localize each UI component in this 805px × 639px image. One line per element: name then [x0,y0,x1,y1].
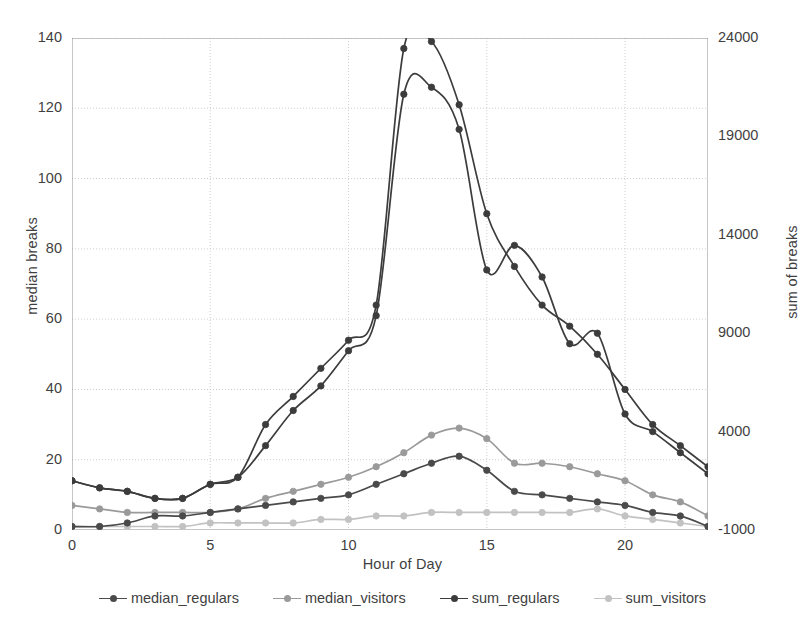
data-point [373,464,379,470]
data-point [72,523,75,529]
data-point [373,481,379,487]
data-point [428,460,434,466]
data-point [179,495,185,501]
data-point [152,495,158,501]
data-point [290,393,296,399]
y-axis-left-tick: 0 [0,521,62,537]
y-axis-left-tick: 60 [0,310,62,326]
data-point [207,509,213,515]
data-point [539,274,545,280]
data-point [567,323,573,329]
data-point [456,425,462,431]
data-point [235,474,241,480]
data-point [649,509,655,515]
data-point [345,492,351,498]
data-point [401,45,407,51]
data-point [567,495,573,501]
data-point [373,513,379,519]
data-point [96,523,102,529]
x-axis-tick: 5 [180,537,240,553]
data-point [594,330,600,336]
data-point [290,499,296,505]
data-point [539,492,545,498]
series-median_visitors [72,425,708,519]
data-point [649,492,655,498]
y-axis-left-tick: 20 [0,451,62,467]
x-axis-title: Hour of Day [0,556,805,572]
data-point [318,481,324,487]
x-axis-tick: 0 [42,537,102,553]
y-axis-right-tick: 14000 [718,226,798,242]
legend-swatch-icon [99,593,127,604]
legend-item-sum_regulars[interactable]: sum_regulars [440,590,560,606]
data-point [539,302,545,308]
x-axis-tick: 20 [595,537,655,553]
data-point [567,464,573,470]
data-point [373,302,379,308]
legend-swatch-icon [273,593,301,604]
data-point [705,523,708,529]
data-point [401,449,407,455]
data-point [622,502,628,508]
y-axis-right-tick: -1000 [718,521,798,537]
series-median_regulars [72,453,708,530]
series-line [72,509,708,527]
legend-item-median_visitors[interactable]: median_visitors [273,590,406,606]
data-point [235,506,241,512]
data-point [456,453,462,459]
data-point [594,499,600,505]
data-point [456,509,462,515]
data-point [262,442,268,448]
data-point [124,488,130,494]
series-line [72,74,708,500]
data-point [484,435,490,441]
data-point [649,516,655,522]
data-point [511,509,517,515]
data-point [72,478,75,484]
data-point [511,460,517,466]
data-point [456,102,462,108]
x-axis-tick: 10 [319,537,379,553]
data-point [594,351,600,357]
data-point [262,520,268,526]
data-point [318,516,324,522]
y-axis-left-tick: 40 [0,380,62,396]
data-point [428,38,434,44]
legend-item-sum_visitors[interactable]: sum_visitors [594,590,707,606]
data-point [567,341,573,347]
plot-svg [72,38,708,530]
y-axis-left-tick: 100 [0,170,62,186]
data-point [484,211,490,217]
data-point [179,523,185,529]
data-point [207,520,213,526]
data-point [401,91,407,97]
data-point [96,485,102,491]
data-point [318,383,324,389]
data-point [207,481,213,487]
data-point [511,242,517,248]
data-point [235,520,241,526]
data-point [262,495,268,501]
data-point [594,506,600,512]
data-point [428,509,434,515]
legend-label: sum_regulars [472,590,560,606]
data-point [179,513,185,519]
legend-label: median_regulars [131,590,239,606]
data-point [649,428,655,434]
legend-item-median_regulars[interactable]: median_regulars [99,590,239,606]
data-point [622,513,628,519]
plot-area [72,38,708,530]
chart-figure: median breaks sum of breaks Hour of Day … [0,0,805,639]
data-point [622,478,628,484]
data-point [705,464,708,470]
data-point [124,509,130,515]
data-point [677,513,683,519]
y-axis-left-tick: 80 [0,240,62,256]
data-point [152,523,158,529]
legend-label: sum_visitors [626,590,707,606]
data-point [318,495,324,501]
data-point [152,513,158,519]
data-point [428,432,434,438]
data-point [511,263,517,269]
data-point [677,442,683,448]
